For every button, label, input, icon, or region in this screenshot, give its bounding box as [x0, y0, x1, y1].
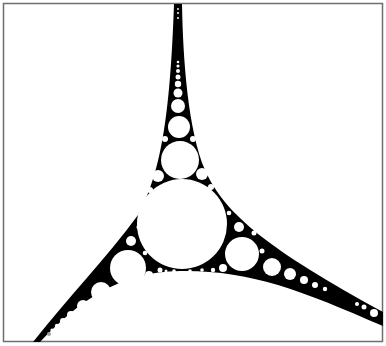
marker-dot	[47, 332, 51, 336]
apollonian-gasket-svg	[0, 0, 386, 346]
gasket-figure: Apollonian gasket	[0, 0, 386, 346]
